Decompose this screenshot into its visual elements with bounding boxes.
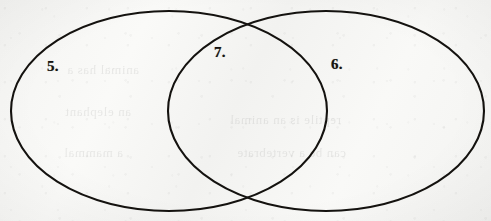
region-label-right: 6. [331,57,343,72]
venn-diagram-svg [0,0,491,221]
venn-diagram-page: animal has a reptile is an animal an ele… [0,0,491,221]
region-label-intersection: 7. [214,45,226,60]
region-label-left: 5. [47,59,59,74]
